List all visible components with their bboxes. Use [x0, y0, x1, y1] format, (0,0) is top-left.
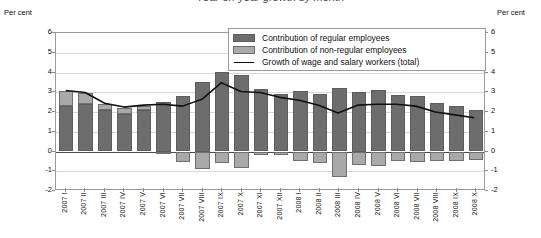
y-tick-label-right: 4: [491, 68, 513, 76]
x-tick-label: 2008 IX: [452, 192, 459, 218]
chart-title: Year-on-year growth by month: [0, 0, 541, 3]
x-tick-label: 2007 VI: [159, 192, 166, 218]
legend-item-total-line: Growth of wage and salary workers (total…: [233, 56, 481, 67]
x-tick-label: 2008 X: [471, 192, 478, 215]
legend-label-non-regular: Contribution of non-regular employees: [262, 45, 407, 55]
x-axis-labels: 2007 I2007 II2007 III2007 IV2007 V2007 V…: [55, 192, 485, 238]
total-growth-line: [66, 83, 475, 118]
legend-label-total-line: Growth of wage and salary workers (total…: [262, 57, 419, 67]
x-tick-label: 2008 V: [374, 192, 381, 215]
y-axis-unit-left: Per cent: [4, 8, 32, 17]
y-tick-mark: [52, 72, 55, 73]
x-tick-label: 2008 II: [315, 192, 322, 215]
y-tick-mark: [52, 111, 55, 112]
x-tick-label: 2008 I: [295, 192, 302, 213]
y-tick-label-right: 6: [491, 28, 513, 36]
x-tick-label: 2007 V: [139, 192, 146, 215]
y-tick-label-left: -1: [30, 166, 52, 174]
y-tick-mark: [52, 32, 55, 33]
chart-legend: Contribution of regular employees Contri…: [228, 28, 486, 71]
x-tick-label: 2008 VIII: [432, 192, 439, 222]
x-tick-label: 2007 X: [237, 192, 244, 215]
x-tick-label: 2007 IV: [119, 192, 126, 218]
chart-container: Year-on-year growth by month Per cent Pe…: [0, 0, 541, 238]
y-tick-mark: [52, 91, 55, 92]
legend-item-non-regular: Contribution of non-regular employees: [233, 44, 481, 55]
y-tick-label-left: 2: [30, 107, 52, 115]
y-tick-label-left: 3: [30, 87, 52, 95]
y-tick-label-left: 0: [30, 147, 52, 155]
y-tick-mark: [52, 190, 55, 191]
y-tick-label-left: 5: [30, 48, 52, 56]
x-tick-label: 2008 IV: [354, 192, 361, 218]
y-tick-label-right: 2: [491, 107, 513, 115]
x-tick-label: 2007 IX: [217, 192, 224, 218]
y-tick-label-left: -2: [30, 186, 52, 194]
y-axis-unit-right: Per cent: [497, 8, 525, 17]
y-tick-mark: [485, 190, 488, 191]
x-tick-label: 2007 XII: [276, 192, 283, 220]
y-tick-mark: [485, 91, 488, 92]
y-tick-mark: [485, 170, 488, 171]
y-tick-mark: [52, 151, 55, 152]
y-tick-label-right: 1: [491, 127, 513, 135]
legend-item-regular: Contribution of regular employees: [233, 32, 481, 43]
x-tick-label: 2007 VIII: [198, 192, 205, 222]
y-tick-label-left: 1: [30, 127, 52, 135]
x-tick-label: 2007 VII: [178, 192, 185, 220]
y-tick-label-right: -1: [491, 166, 513, 174]
y-tick-mark: [485, 131, 488, 132]
y-tick-mark: [485, 111, 488, 112]
legend-swatch-non-regular-icon: [233, 46, 255, 54]
x-tick-label: 2008 VI: [393, 192, 400, 218]
y-tick-mark: [52, 170, 55, 171]
y-tick-label-left: 4: [30, 68, 52, 76]
x-tick-label: 2007 XI: [256, 192, 263, 218]
y-tick-label-right: 0: [491, 147, 513, 155]
y-tick-label-right: 3: [491, 87, 513, 95]
y-tick-label-right: 5: [491, 48, 513, 56]
y-tick-label-right: -2: [491, 186, 513, 194]
x-tick-label: 2007 III: [100, 192, 107, 217]
y-tick-mark: [52, 52, 55, 53]
y-tick-mark: [52, 131, 55, 132]
y-tick-label-left: 6: [30, 28, 52, 36]
x-tick-label: 2007 II: [80, 192, 87, 215]
y-tick-mark: [485, 151, 488, 152]
legend-swatch-regular-icon: [233, 34, 255, 42]
x-tick-label: 2007 I: [61, 192, 68, 213]
legend-label-regular: Contribution of regular employees: [262, 33, 390, 43]
legend-swatch-line-icon: [233, 58, 255, 66]
x-tick-label: 2008 VII: [413, 192, 420, 220]
chart-title-clip: Year-on-year growth by month: [0, 0, 541, 9]
x-tick-label: 2008 III: [334, 192, 341, 217]
y-tick-mark: [485, 72, 488, 73]
